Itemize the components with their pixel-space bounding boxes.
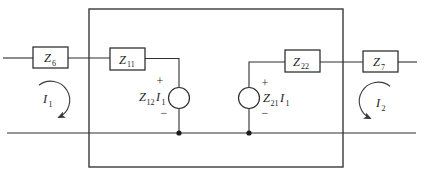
- junction-dot-right: [246, 130, 251, 135]
- impedance-label-z11: Z: [119, 53, 127, 67]
- source2-label-i-sub: 1: [286, 99, 290, 108]
- impedance-label-z22: Z: [293, 55, 301, 69]
- mesh-current-label-i2-sub: 2: [382, 104, 386, 113]
- mesh-current-label-i1: I: [42, 92, 48, 106]
- impedance-label-z6: Z: [44, 51, 52, 65]
- source2-label-sub: 21: [271, 99, 279, 108]
- two-port-boundary-box: [89, 9, 343, 167]
- impedance-label-z11-sub: 11: [127, 60, 135, 69]
- circuit-canvas: Z 6 Z 11 Z 22 Z 7 + − Z 12 I 1 + − Z 21 …: [0, 0, 429, 183]
- source1-label-sub: 12: [147, 98, 155, 107]
- dependent-source-z21i1: [239, 88, 260, 109]
- minus-sign-source2: −: [262, 106, 269, 120]
- circuit-figure: Z 6 Z 11 Z 22 Z 7 + − Z 12 I 1 + − Z 21 …: [0, 0, 429, 183]
- source1-label-i: I: [155, 90, 161, 104]
- impedance-label-z7: Z: [373, 55, 381, 69]
- impedance-label-z6-sub: 6: [52, 59, 56, 68]
- source2-label-i: I: [279, 91, 285, 105]
- junction-dot-left: [176, 130, 181, 135]
- minus-sign-source1: −: [161, 106, 168, 120]
- mesh-current-label-i2: I: [375, 96, 381, 110]
- dependent-source-z12i1: [169, 88, 190, 109]
- plus-sign-source2: +: [262, 76, 269, 90]
- plus-sign-source1: +: [157, 74, 164, 88]
- mesh-current-arrow-i2: [359, 82, 390, 118]
- impedance-label-z7-sub: 7: [381, 63, 385, 72]
- impedance-label-z22-sub: 22: [301, 62, 309, 71]
- source1-label-i-sub: 1: [162, 98, 166, 107]
- mesh-current-label-i1-sub: 1: [49, 100, 53, 109]
